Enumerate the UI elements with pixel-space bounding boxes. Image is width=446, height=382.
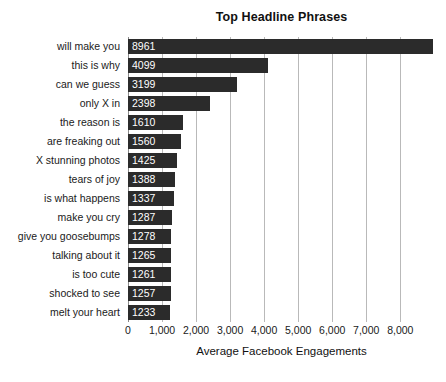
x-tick-label: 3,000 [217, 322, 243, 338]
bar[interactable] [128, 96, 210, 111]
bar[interactable] [128, 305, 170, 320]
category-label: talking about it [0, 246, 124, 265]
bar-row[interactable]: 3199 [128, 75, 435, 94]
bar[interactable] [128, 248, 171, 263]
bar[interactable] [128, 191, 174, 206]
category-label: will make you [0, 37, 124, 56]
bar[interactable] [128, 210, 172, 225]
bar-row[interactable]: 1278 [128, 227, 435, 246]
bar-row[interactable]: 1257 [128, 284, 435, 303]
bar-row[interactable]: 1388 [128, 170, 435, 189]
bar[interactable] [128, 77, 237, 92]
category-label: this is why [0, 56, 124, 75]
category-label: only X in [0, 94, 124, 113]
bar-row[interactable]: 1425 [128, 151, 435, 170]
chart-title: Top Headline Phrases [128, 10, 435, 24]
x-axis-tick-labels: 01,0002,0003,0004,0005,0006,0007,0008,00… [0, 322, 446, 340]
category-label: tears of joy [0, 170, 124, 189]
bar-row[interactable]: 8961 [128, 37, 435, 56]
bar[interactable] [128, 58, 268, 73]
bar[interactable] [128, 134, 181, 149]
x-tick-label: 8,000 [387, 322, 413, 338]
x-tick-label: 0 [125, 322, 131, 338]
category-label: X stunning photos [0, 151, 124, 170]
bar-row[interactable]: 1560 [128, 132, 435, 151]
bar[interactable] [128, 153, 177, 168]
bar-row[interactable]: 1233 [128, 303, 435, 322]
bar[interactable] [128, 39, 433, 54]
bar[interactable] [128, 229, 171, 244]
bar-row[interactable]: 1287 [128, 208, 435, 227]
category-label: are freaking out [0, 132, 124, 151]
plot-area: 8961409931992398161015601425138813371287… [128, 37, 435, 322]
x-tick-label: 1,000 [149, 322, 175, 338]
category-label: can we guess [0, 75, 124, 94]
x-tick-label: 6,000 [319, 322, 345, 338]
category-axis-labels: will make youthis is whycan we guessonly… [0, 37, 124, 322]
bar[interactable] [128, 267, 171, 282]
category-label: is too cute [0, 265, 124, 284]
bar-row[interactable]: 1337 [128, 189, 435, 208]
x-tick-label: 5,000 [285, 322, 311, 338]
category-label: is what happens [0, 189, 124, 208]
bar-row[interactable]: 2398 [128, 94, 435, 113]
bar[interactable] [128, 115, 183, 130]
bar-row[interactable]: 4099 [128, 56, 435, 75]
category-label: make you cry [0, 208, 124, 227]
category-label: give you goosebumps [0, 227, 124, 246]
bar-row[interactable]: 1265 [128, 246, 435, 265]
category-label: melt your heart [0, 303, 124, 322]
bar[interactable] [128, 286, 171, 301]
bar-row[interactable]: 1261 [128, 265, 435, 284]
bar-row[interactable]: 1610 [128, 113, 435, 132]
x-tick-label: 4,000 [251, 322, 277, 338]
category-label: shocked to see [0, 284, 124, 303]
bar[interactable] [128, 172, 175, 187]
category-label: the reason is [0, 113, 124, 132]
x-tick-label: 7,000 [353, 322, 379, 338]
x-axis-title: Average Facebook Engagements [128, 345, 435, 357]
bar-chart: Top Headline Phrases will make youthis i… [0, 0, 446, 382]
x-tick-label: 2,000 [183, 322, 209, 338]
bar-rows: 8961409931992398161015601425138813371287… [128, 37, 435, 322]
